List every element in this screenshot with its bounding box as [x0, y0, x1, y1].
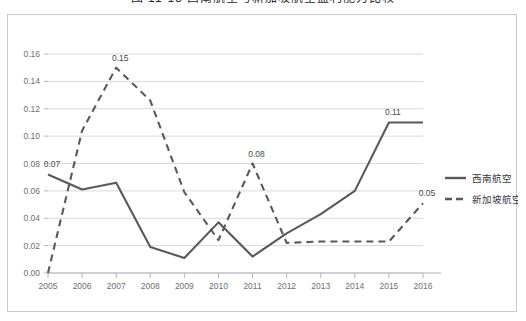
x-axis-tick-label: 2009	[175, 281, 194, 291]
y-axis-tick-label: 0.14	[23, 76, 40, 86]
x-tick-marks-group	[48, 273, 423, 278]
x-axis-tick-label: 2016	[414, 281, 433, 291]
series-line	[48, 122, 423, 258]
legend-label: 西南航空	[472, 173, 512, 184]
y-axis-tick-label: 0.16	[23, 49, 40, 59]
series-line	[48, 68, 423, 273]
y-axis-tick-label: 0.02	[23, 241, 40, 251]
x-axis-tick-label: 2012	[277, 281, 296, 291]
series-lines-group	[48, 68, 423, 273]
y-axis-tick-label: 0.00	[23, 268, 40, 278]
y-axis-tick-label: 0.08	[23, 159, 40, 169]
x-axis-tick-label: 2013	[311, 281, 330, 291]
x-axis-tick-label: 2015	[379, 281, 398, 291]
legend: 西南航空新加坡航空	[445, 173, 518, 205]
data-point-label: 0.07	[44, 159, 61, 169]
y-axis-tick-label: 0.12	[23, 104, 40, 114]
x-axis-tick-label: 2008	[141, 281, 160, 291]
y-axis-tick-label: 0.06	[23, 186, 40, 196]
figure-title: 图 11-13 西南航空与新加坡航空盈利能力比较	[0, 0, 526, 5]
x-axis-tick-label: 2010	[209, 281, 228, 291]
x-axis-tick-label: 2007	[107, 281, 126, 291]
data-labels-group: 0.070.150.080.110.05	[44, 53, 436, 199]
chart-frame: 0.000.020.040.060.080.100.120.140.16 200…	[7, 14, 517, 312]
data-point-label: 0.08	[248, 149, 265, 159]
y-axis-tick-label: 0.10	[23, 131, 40, 141]
x-axis-tick-label: 2006	[73, 281, 92, 291]
x-axis-tick-label: 2014	[345, 281, 364, 291]
data-point-label: 0.05	[419, 188, 436, 198]
y-axis-tick-label: 0.04	[23, 213, 40, 223]
x-axis-tick-label: 2011	[243, 281, 262, 291]
line-chart-svg: 0.000.020.040.060.080.100.120.140.16 200…	[8, 15, 518, 313]
chart-plot-area: 0.000.020.040.060.080.100.120.140.16 200…	[8, 15, 518, 313]
data-point-label: 0.15	[112, 53, 129, 63]
legend-label: 新加坡航空	[472, 194, 518, 205]
y-axis-tick-labels: 0.000.020.040.060.080.100.120.140.16	[23, 49, 40, 278]
x-axis-tick-label: 2005	[39, 281, 58, 291]
data-point-label: 0.11	[385, 107, 401, 117]
x-axis-tick-labels: 2005200620072008200920102011201220132014…	[39, 281, 433, 291]
